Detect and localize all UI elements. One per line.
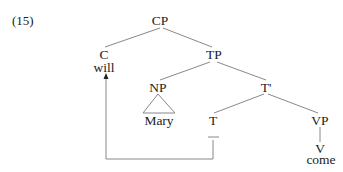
example-number: (15)	[12, 13, 34, 29]
node-np-word: Mary	[144, 114, 173, 128]
node-np: NP	[149, 81, 166, 95]
node-cp: CP	[152, 14, 169, 28]
node-t: T	[209, 114, 217, 128]
node-tp: TP	[206, 48, 222, 62]
node-tbar: T'	[261, 81, 272, 95]
node-c-word: will	[93, 61, 114, 75]
syntax-tree-lines	[0, 0, 343, 172]
node-v-word: come	[306, 153, 335, 167]
node-vp: VP	[311, 114, 328, 128]
